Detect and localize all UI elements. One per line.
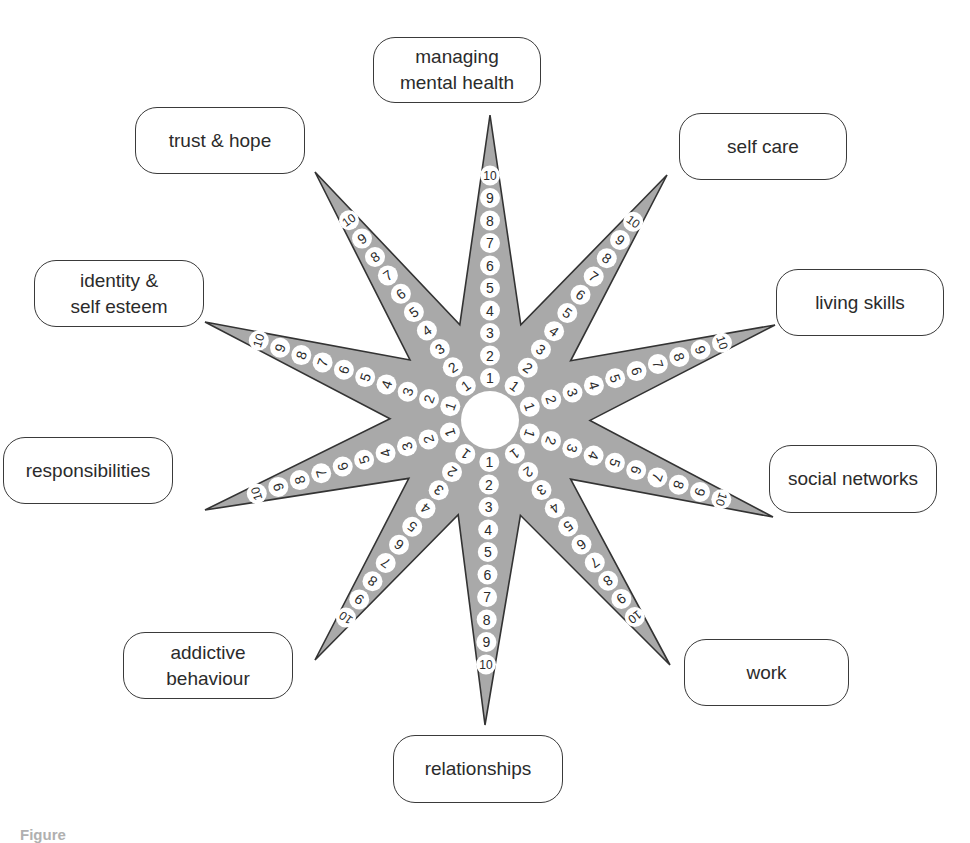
scale-number: 2	[485, 477, 493, 493]
scale-number: 10	[483, 169, 497, 183]
label-identity-self-esteem: identity & self esteem	[34, 260, 204, 327]
label-self-care: self care	[679, 113, 847, 180]
label-responsibilities: responsibilities	[3, 437, 173, 504]
scale-number: 6	[486, 258, 494, 274]
figure-caption: Figure	[20, 826, 66, 843]
scale-number: 9	[483, 634, 491, 650]
scale-number: 8	[486, 213, 494, 229]
scale-number: 9	[486, 190, 494, 206]
scale-number: 1	[486, 370, 494, 386]
scale-number: 4	[486, 303, 494, 319]
scale-number: 5	[486, 280, 494, 296]
scale-number: 10	[479, 658, 493, 672]
scale-number: 7	[486, 235, 494, 251]
scale-number: 7	[483, 589, 491, 605]
label-living-skills: living skills	[776, 269, 944, 336]
scale-number: 6	[484, 567, 492, 583]
scale-number: 8	[483, 612, 491, 628]
scale-number: 3	[486, 325, 494, 341]
label-relationships: relationships	[393, 735, 563, 803]
center-circle	[461, 391, 519, 449]
scale-number: 5	[484, 544, 492, 560]
label-social-networks: social networks	[769, 445, 937, 513]
scale-number: 3	[485, 499, 493, 515]
scale-number: 1	[485, 454, 493, 470]
label-managing-mental-health: managing mental health	[373, 37, 541, 103]
label-addictive-behaviour: addictive behaviour	[123, 632, 293, 699]
scale-number: 4	[484, 522, 492, 538]
label-trust-hope: trust & hope	[135, 107, 305, 174]
label-work: work	[684, 639, 849, 706]
scale-number: 2	[486, 348, 494, 364]
